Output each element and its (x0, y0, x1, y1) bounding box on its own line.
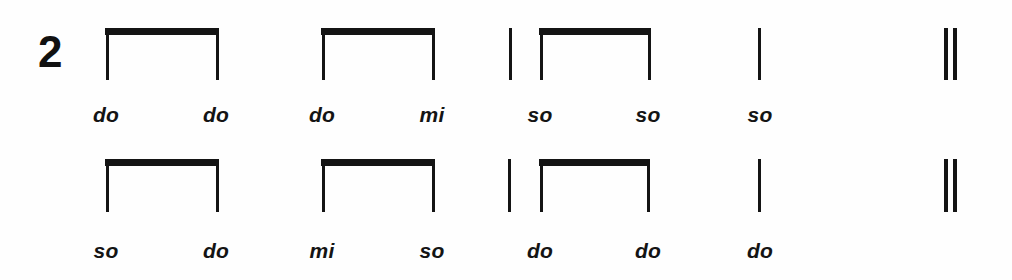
note-stem (432, 159, 435, 212)
note-stem (540, 159, 543, 212)
note-stem (322, 159, 325, 212)
system-row-2: so do mi so do do do (0, 0, 1012, 140)
beam (105, 159, 219, 166)
solfege-label: so (94, 240, 119, 261)
note-stem (508, 159, 511, 212)
solfege-label: do (747, 240, 773, 261)
note-stem (106, 159, 109, 212)
barline-stroke (944, 159, 948, 212)
note-stem (758, 159, 761, 212)
music-notation-sheet: 2 do do (0, 0, 1012, 280)
note-stem (216, 159, 219, 212)
solfege-label: do (203, 240, 229, 261)
beam (321, 159, 435, 166)
solfege-label: do (635, 240, 661, 261)
note-stem (647, 159, 650, 212)
solfege-label: so (420, 240, 445, 261)
beam (539, 159, 650, 166)
barline-stroke (953, 159, 957, 212)
solfege-label: mi (310, 240, 335, 261)
solfege-label: do (527, 240, 553, 261)
